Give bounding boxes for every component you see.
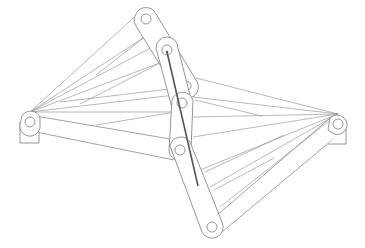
left-lower-link	[24, 114, 176, 160]
bottom-link	[170, 137, 223, 238]
linkage-svg	[0, 0, 365, 248]
right-base-support	[328, 115, 347, 144]
linkage-diagram	[0, 0, 365, 248]
left-base-support	[20, 111, 40, 143]
right-fan-lines	[193, 78, 338, 207]
right-lower-link	[216, 118, 344, 232]
